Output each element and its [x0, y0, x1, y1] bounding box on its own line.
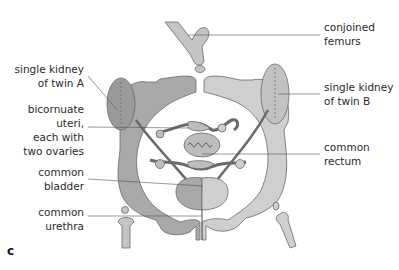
- label-kidney-twin-a: single kidney of twin A: [0, 62, 84, 90]
- label-common-urethra: common urethra: [0, 205, 84, 233]
- femur-left: [118, 218, 134, 249]
- label-conjoined-femurs: conjoined femurs: [324, 20, 375, 48]
- femur-right: [276, 212, 296, 248]
- common-bladder: [176, 178, 202, 210]
- label-kidney-twin-b: single kidney of twin B: [324, 80, 393, 108]
- conjoined-femurs: [165, 22, 209, 65]
- panel-label: c: [7, 244, 14, 258]
- label-common-bladder: common bladder: [0, 165, 84, 193]
- label-common-rectum: common rectum: [324, 140, 370, 168]
- common-rectum: [184, 133, 220, 157]
- label-bicornuate-uteri: bicornuate uteri, each with two ovaries: [0, 102, 84, 158]
